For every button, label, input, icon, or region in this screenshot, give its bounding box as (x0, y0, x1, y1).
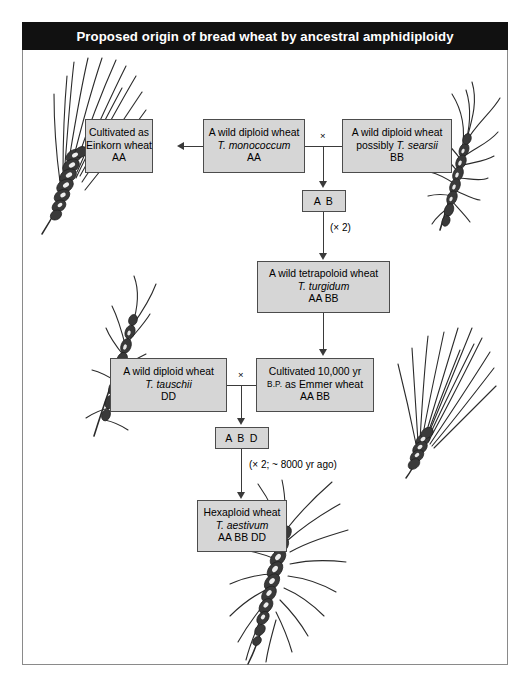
turgidum-genome: AA BB (308, 293, 338, 305)
cross-symbol-2: × (238, 369, 244, 380)
emmer-line-2: B.P. as Emmer wheat (267, 379, 363, 391)
tauschii-genome: DD (161, 391, 176, 403)
arrow-to-einkorn (177, 142, 184, 150)
box-genome-ab: A B (302, 190, 346, 212)
searsii-line-2: possibly T. searsii (356, 140, 438, 152)
figure-title-bar: Proposed origin of bread wheat by ancest… (22, 22, 508, 50)
box-t-tauschii: A wild diploid wheat T. tauschii DD (110, 358, 227, 412)
note-doubling-2: (× 2; ~ 8000 yr ago) (249, 459, 337, 470)
einkorn-line-1: Cultivated as (89, 127, 149, 139)
searsii-genome: BB (390, 152, 404, 164)
aestivum-species: T. aestivum (216, 520, 269, 532)
connector-cross-1-down (323, 146, 324, 184)
emmer-wheat-spike (390, 288, 510, 478)
aestivum-line-1: Hexaploid wheat (204, 507, 281, 519)
arrow-to-aestivum (237, 492, 245, 499)
emmer-genome: AA BB (300, 391, 330, 403)
cross-symbol-1: × (320, 130, 326, 141)
arrow-to-turgidum (319, 253, 327, 260)
arrow-to-emmer (319, 349, 327, 356)
box-einkorn-wheat: Cultivated as Einkorn wheat AA (85, 119, 153, 173)
einkorn-genome: AA (112, 152, 126, 164)
connector-abd-to-aestivum (241, 449, 242, 495)
emmer-line-1: Cultivated 10,000 yr (269, 366, 361, 378)
searsii-species: T. searsii (397, 140, 438, 151)
connector-cross-2-down (241, 385, 242, 421)
arrow-to-ab (319, 181, 327, 188)
emmer-line-2-rest: as Emmer wheat (282, 379, 363, 390)
tauschii-wheat-spike (64, 258, 174, 448)
box-t-turgidum: A wild tetrapoloid wheat T. turgidum AA … (257, 261, 390, 313)
turgidum-species: T. turgidum (298, 281, 350, 293)
emmer-bp-label: B.P. (267, 380, 282, 389)
box-genome-abd: A B D (215, 427, 269, 449)
turgidum-line-1: A wild tetrapoloid wheat (269, 268, 378, 280)
diagram-canvas: Cultivated as Einkorn wheat AA A wild di… (22, 50, 508, 665)
connector-turgidum-to-emmer (323, 313, 324, 352)
box-emmer-wheat: Cultivated 10,000 yr B.P. as Emmer wheat… (256, 358, 374, 412)
einkorn-line-2: Einkorn wheat (86, 140, 152, 152)
page-title: Proposed origin of bread wheat by ancest… (76, 29, 453, 44)
searsii-possibly: possibly (356, 140, 396, 151)
box-t-monococcum: A wild diploid wheat T. monococcum AA (203, 119, 305, 173)
box-t-searsii: A wild diploid wheat possibly T. searsii… (342, 119, 452, 173)
monococcum-species: T. monococcum (218, 140, 291, 152)
arrow-to-abd (237, 418, 245, 425)
connector-ab-to-turgidum (323, 212, 324, 256)
tauschii-line-1: A wild diploid wheat (123, 366, 214, 378)
monococcum-line-1: A wild diploid wheat (209, 127, 300, 139)
monococcum-genome: AA (247, 152, 261, 164)
searsii-line-1: A wild diploid wheat (352, 127, 443, 139)
aestivum-genome: AA BB DD (218, 532, 266, 544)
box-t-aestivum: Hexaploid wheat T. aestivum AA BB DD (197, 500, 287, 552)
tauschii-species: T. tauschii (145, 379, 191, 391)
note-doubling-1: (× 2) (330, 222, 351, 233)
